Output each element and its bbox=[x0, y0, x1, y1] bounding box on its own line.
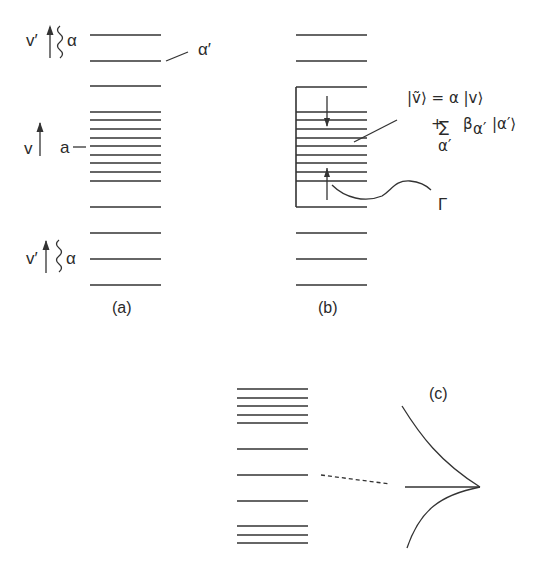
label-bot-alpha: α bbox=[66, 249, 76, 268]
label-top-alpha: α bbox=[67, 31, 77, 50]
alpha-prime-ket: |α′⟩ bbox=[492, 115, 516, 133]
arrow-head-icon bbox=[47, 25, 54, 35]
gamma-label: Γ bbox=[438, 195, 447, 214]
equation-line-1: |ṽ⟩ = α |v⟩ bbox=[407, 89, 483, 107]
sum-index: α′ bbox=[438, 137, 452, 155]
label-mid-a: a bbox=[60, 138, 70, 157]
panel-a bbox=[90, 35, 161, 285]
caption-c: (c) bbox=[429, 385, 448, 402]
panel-b bbox=[296, 35, 367, 285]
equation-pointer bbox=[354, 120, 397, 142]
panel-c bbox=[237, 389, 308, 543]
label-top-vprime: v′ bbox=[26, 31, 38, 50]
diagram-canvas: v′ α α′ v a v′ α (a) Γ bbox=[0, 0, 551, 571]
beta-symbol: β bbox=[463, 115, 473, 133]
panel-a-labels: v′ α α′ v a v′ α (a) bbox=[24, 25, 211, 316]
lorentzian-lower-curve bbox=[407, 487, 480, 548]
alpha-prime-pointer bbox=[166, 52, 188, 61]
arrow-head-icon bbox=[37, 122, 44, 132]
caption-a: (a) bbox=[112, 299, 132, 316]
arrow-head-icon bbox=[43, 240, 50, 250]
arrow-head-icon bbox=[324, 118, 330, 127]
dashed-connector bbox=[321, 475, 390, 484]
beta-subscript: α′ bbox=[473, 120, 487, 138]
gamma-curve bbox=[332, 181, 431, 199]
panel-b-extras: Γ |ṽ⟩ = α |v⟩ + ∑ α′ β α′ |α′⟩ (b) bbox=[296, 87, 516, 316]
sum-symbol: ∑ bbox=[439, 118, 449, 136]
wavy-line-icon bbox=[57, 240, 62, 272]
panel-c-extras: (c) bbox=[321, 385, 480, 548]
lorentzian-upper-curve bbox=[402, 406, 480, 487]
label-alpha-prime: α′ bbox=[198, 40, 211, 59]
caption-b: (b) bbox=[318, 299, 338, 316]
label-mid-v: v bbox=[24, 139, 33, 158]
wavy-line-icon bbox=[58, 26, 63, 58]
label-bot-vprime: v′ bbox=[26, 249, 38, 268]
